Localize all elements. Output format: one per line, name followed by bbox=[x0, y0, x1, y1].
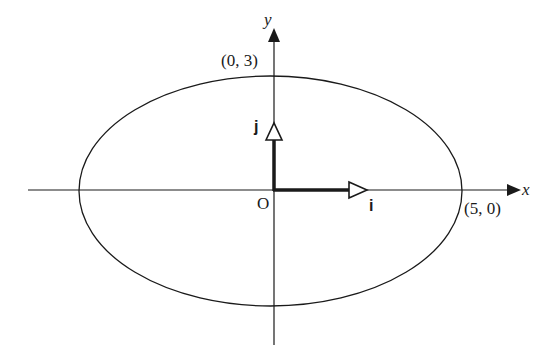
origin-label: O bbox=[257, 194, 269, 213]
unit-vector-i-label: i bbox=[369, 197, 373, 214]
unit-vector-j: j bbox=[253, 118, 282, 191]
point-label-0-3: (0, 3) bbox=[221, 51, 258, 70]
ellipse-curve bbox=[79, 76, 462, 306]
y-axis-arrowhead-icon bbox=[268, 28, 280, 42]
unit-vector-i: i bbox=[273, 182, 373, 214]
y-axis: y bbox=[262, 10, 280, 345]
unit-vector-i-open-arrowhead-icon bbox=[349, 182, 367, 198]
y-axis-label: y bbox=[262, 10, 272, 29]
ellipse-diagram: x y (0, 3) (5, 0) O j i bbox=[0, 0, 550, 364]
x-axis-arrowhead-icon bbox=[507, 184, 521, 196]
point-label-5-0: (5, 0) bbox=[464, 199, 501, 218]
x-axis-label: x bbox=[521, 180, 530, 199]
unit-vector-j-label: j bbox=[253, 118, 258, 135]
unit-vector-j-open-arrowhead-icon bbox=[266, 123, 282, 140]
